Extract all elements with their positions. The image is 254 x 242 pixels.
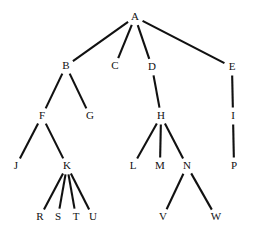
tree-node-w[interactable]: W — [211, 210, 222, 222]
tree-edge-a-d — [138, 25, 150, 59]
tree-node-l[interactable]: L — [130, 159, 137, 171]
tree-graph-canvas: ABCDEFGHIJKLMNPRSTUVW — [0, 0, 254, 242]
tree-node-t[interactable]: T — [73, 210, 80, 222]
tree-edge-i-p — [233, 125, 234, 158]
tree-edge-a-c — [118, 25, 132, 58]
tree-edge-d-h — [154, 75, 160, 107]
tree-edge-h-l — [137, 123, 157, 158]
tree-node-h[interactable]: H — [157, 109, 165, 121]
tree-node-n[interactable]: N — [183, 159, 191, 171]
tree-node-r[interactable]: R — [36, 210, 44, 222]
tree-node-v[interactable]: V — [159, 210, 167, 222]
tree-node-m[interactable]: M — [155, 159, 165, 171]
tree-node-a[interactable]: A — [131, 10, 139, 22]
tree-edge-f-j — [20, 124, 38, 159]
tree-node-s[interactable]: S — [55, 210, 61, 222]
tree-node-k[interactable]: K — [63, 159, 71, 171]
tree-node-j[interactable]: J — [14, 159, 19, 171]
tree-node-f[interactable]: F — [39, 109, 45, 121]
tree-node-g[interactable]: G — [86, 109, 94, 121]
tree-edge-a-e — [143, 21, 225, 63]
tree-node-d[interactable]: D — [148, 60, 156, 72]
tree-edge-h-m — [160, 125, 161, 158]
tree-node-e[interactable]: E — [229, 60, 236, 72]
tree-node-c[interactable]: C — [111, 59, 118, 71]
tree-node-u[interactable]: U — [89, 210, 97, 222]
edge-layer — [20, 21, 234, 210]
tree-edge-b-g — [70, 74, 87, 109]
tree-node-b[interactable]: B — [62, 59, 69, 71]
tree-edge-e-i — [232, 76, 233, 108]
tree-node-p[interactable]: P — [231, 159, 237, 171]
tree-node-i[interactable]: I — [231, 109, 235, 121]
tree-edge-n-v — [167, 174, 184, 210]
tree-edge-b-f — [46, 74, 63, 109]
tree-edge-n-w — [191, 173, 212, 209]
tree-edge-h-n — [165, 124, 183, 159]
tree-diagram: ABCDEFGHIJKLMNPRSTUVW — [0, 0, 254, 242]
tree-edge-f-k — [46, 124, 63, 159]
